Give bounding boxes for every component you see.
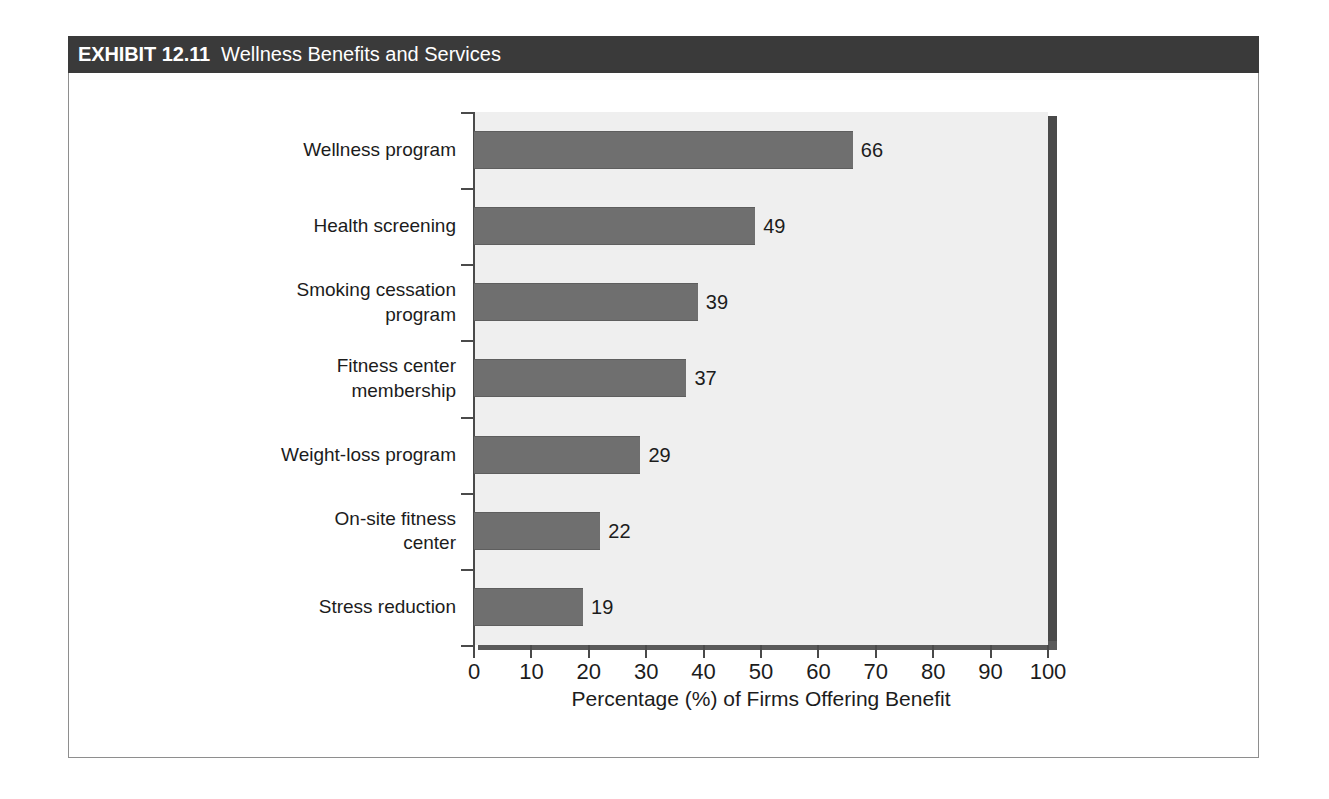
bar[interactable]: [474, 131, 853, 169]
x-axis-tick: [645, 645, 647, 658]
bar-value-label: 29: [648, 443, 670, 466]
exhibit-title-bar: EXHIBIT 12.11 Wellness Benefits and Serv…: [68, 36, 1259, 73]
bar[interactable]: [474, 207, 755, 245]
x-axis-tick: [932, 645, 934, 658]
x-axis-tick-label: 30: [634, 659, 658, 685]
y-axis-tick: [461, 112, 474, 114]
chart-row: Weight-loss program29: [68, 417, 1048, 493]
chart-row: On-site fitness center22: [68, 493, 1048, 569]
exhibit-page: EXHIBIT 12.11 Wellness Benefits and Serv…: [0, 0, 1329, 799]
bar-chart: Wellness program66Health screening49Smok…: [68, 73, 1259, 758]
bar-wrapper: [474, 359, 686, 397]
x-axis-tick-label: 100: [1030, 659, 1067, 685]
bar-value-label: 19: [591, 595, 613, 618]
x-axis-tick-label: 90: [978, 659, 1002, 685]
bar-value-label: 22: [608, 519, 630, 542]
x-axis-tick: [760, 645, 762, 658]
x-axis-tick-label: 50: [749, 659, 773, 685]
category-label: Stress reduction: [319, 595, 456, 619]
x-axis-title: Percentage (%) of Firms Offering Benefit: [474, 687, 1048, 711]
bar-value-label: 49: [763, 215, 785, 238]
category-label: Wellness program: [303, 138, 456, 162]
exhibit-title: Wellness Benefits and Services: [221, 43, 501, 66]
y-axis-tick: [461, 493, 474, 495]
x-axis-tick-label: 80: [921, 659, 945, 685]
bar-value-label: 39: [706, 291, 728, 314]
chart-row: Fitness center membership37: [68, 340, 1048, 416]
bar[interactable]: [474, 588, 583, 626]
category-label: On-site fitness center: [335, 506, 456, 555]
bar-wrapper: [474, 131, 853, 169]
bar[interactable]: [474, 512, 600, 550]
x-axis-tick-label: 0: [468, 659, 480, 685]
bar-wrapper: [474, 207, 755, 245]
x-axis-tick-label: 60: [806, 659, 830, 685]
category-label: Weight-loss program: [281, 442, 456, 466]
plot-shadow-right: [1048, 116, 1057, 650]
category-label: Smoking cessation program: [297, 278, 456, 327]
bar[interactable]: [474, 359, 686, 397]
x-axis-tick-label: 40: [691, 659, 715, 685]
exhibit-number: EXHIBIT 12.11: [78, 43, 210, 66]
y-axis-tick: [461, 340, 474, 342]
y-axis-tick: [461, 417, 474, 419]
bar[interactable]: [474, 436, 640, 474]
category-label: Health screening: [313, 214, 456, 238]
x-axis-tick-label: 20: [577, 659, 601, 685]
chart-row: Health screening49: [68, 188, 1048, 264]
category-label: Fitness center membership: [337, 354, 456, 403]
bar-wrapper: [474, 588, 583, 626]
x-axis-tick: [1047, 645, 1049, 658]
y-axis-tick: [461, 264, 474, 266]
bar-wrapper: [474, 436, 640, 474]
x-axis-tick: [703, 645, 705, 658]
chart-row: Wellness program66: [68, 112, 1048, 188]
bar[interactable]: [474, 283, 698, 321]
x-axis-tick: [530, 645, 532, 658]
x-axis-tick: [875, 645, 877, 658]
x-axis-tick: [588, 645, 590, 658]
chart-row: Smoking cessation program39: [68, 264, 1048, 340]
bar-value-label: 37: [694, 367, 716, 390]
bar-wrapper: [474, 283, 698, 321]
y-axis-tick: [461, 569, 474, 571]
x-axis-tick: [990, 645, 992, 658]
y-axis-tick: [461, 188, 474, 190]
chart-row: Stress reduction19: [68, 569, 1048, 645]
bar-value-label: 66: [861, 139, 883, 162]
x-axis-tick: [817, 645, 819, 658]
x-axis-tick: [473, 645, 475, 658]
chart-rows: Wellness program66Health screening49Smok…: [68, 112, 1048, 645]
x-axis-tick-label: 10: [519, 659, 543, 685]
bar-wrapper: [474, 512, 600, 550]
x-axis-tick-label: 70: [864, 659, 888, 685]
